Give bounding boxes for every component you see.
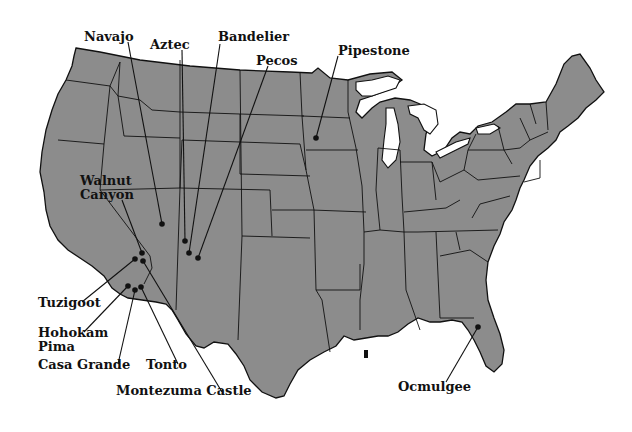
site-dot-montezuma-castle bbox=[140, 258, 146, 264]
label-tuzigoot: Tuzigoot bbox=[38, 296, 101, 310]
site-dot-hohokam-pima bbox=[125, 283, 131, 289]
label-hohokam-pima: Hohokam Pima bbox=[38, 326, 108, 354]
island-marker bbox=[364, 350, 368, 358]
label-aztec: Aztec bbox=[150, 38, 190, 52]
site-dot-walnut-canyon bbox=[139, 250, 145, 256]
label-casa-grande: Casa Grande bbox=[38, 358, 130, 372]
label-pipestone: Pipestone bbox=[338, 44, 410, 58]
site-dot-pecos bbox=[195, 255, 201, 261]
site-dot-pipestone bbox=[313, 135, 319, 141]
site-dot-casa-grande bbox=[132, 287, 138, 293]
label-navajo: Navajo bbox=[84, 30, 134, 44]
site-dot-bandelier bbox=[186, 250, 192, 256]
site-dot-navajo bbox=[159, 221, 165, 227]
label-tonto: Tonto bbox=[146, 358, 187, 372]
label-montezuma-castle: Montezuma Castle bbox=[116, 384, 252, 398]
label-walnut-canyon: Walnut Canyon bbox=[80, 174, 134, 202]
label-bandelier: Bandelier bbox=[218, 30, 289, 44]
site-dot-aztec bbox=[182, 238, 188, 244]
site-dot-ocmulgee bbox=[475, 324, 481, 330]
label-pecos: Pecos bbox=[256, 54, 298, 68]
site-dot-tuzigoot bbox=[132, 256, 138, 262]
label-ocmulgee: Ocmulgee bbox=[398, 380, 471, 394]
site-dot-tonto bbox=[138, 284, 144, 290]
